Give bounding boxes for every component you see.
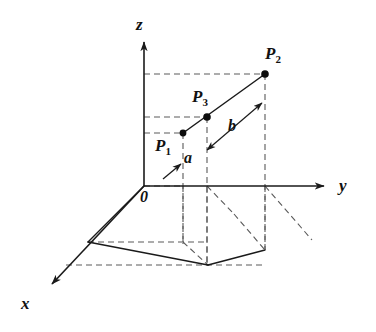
segment-a-arrow [163,164,181,179]
segment-label-a: a [184,150,192,166]
point-label-p2: P2 [265,45,281,65]
x-axis-label: x [21,295,30,312]
projection-plane-dashed-edges [66,186,312,265]
projection-plane-solid-edges [88,186,265,265]
figure-canvas: z y x 0 P1 P3 P2 a b [0,0,376,332]
z-axis-label: z [136,16,143,33]
point-dot-p2 [261,70,269,78]
point-label-p2-base: P [265,44,275,63]
y-axis-label: y [339,177,347,194]
point-label-p3-base: P [192,87,202,106]
point-label-p3-sub: 3 [202,96,208,108]
point-label-p1-sub: 1 [165,145,171,157]
point-label-p1-base: P [155,136,165,155]
point-label-p3: P3 [192,88,208,108]
point-label-p2-sub: 2 [275,53,281,65]
origin-label: 0 [140,189,148,205]
x-axis-line [52,186,144,284]
coordinate-diagram-svg [0,0,376,332]
point-dot-p1 [180,130,187,137]
point-label-p1: P1 [155,137,171,157]
point-dot-p3 [203,113,211,121]
segment-label-b: b [228,118,236,134]
